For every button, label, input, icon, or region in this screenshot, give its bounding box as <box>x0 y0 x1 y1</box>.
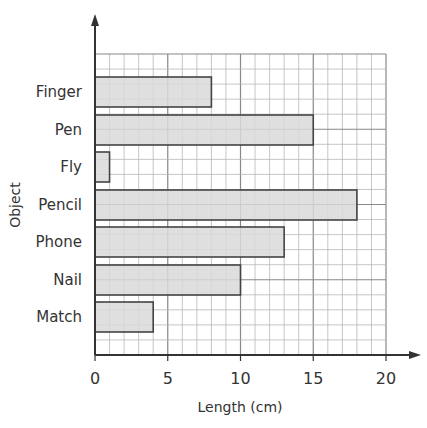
category-label: Pencil <box>38 196 82 214</box>
bar-finger <box>95 77 211 107</box>
bars <box>95 77 357 332</box>
x-tick-label: 20 <box>376 369 396 388</box>
bar-pencil <box>95 190 357 220</box>
x-tick-label: 15 <box>303 369 323 388</box>
x-axis-arrow-icon <box>409 351 421 359</box>
bar-match <box>95 302 153 332</box>
bar-fly <box>95 152 110 182</box>
bar-chart: 05101520 FingerPenFlyPencilPhoneNailMatc… <box>0 0 427 428</box>
category-label: Nail <box>53 271 82 289</box>
x-tick-label: 5 <box>163 369 173 388</box>
x-tick-label: 0 <box>90 369 100 388</box>
y-axis-title: Object <box>7 182 23 228</box>
category-label: Match <box>36 308 82 326</box>
bar-pen <box>95 115 313 145</box>
x-ticks: 05101520 <box>90 355 396 388</box>
category-labels: FingerPenFlyPencilPhoneNailMatch <box>36 83 83 326</box>
x-axis-title: Length (cm) <box>198 399 283 415</box>
category-label: Phone <box>36 233 82 251</box>
bar-nail <box>95 265 241 295</box>
category-label: Fly <box>60 158 82 176</box>
category-label: Pen <box>55 121 82 139</box>
y-axis-arrow-icon <box>91 14 99 26</box>
category-label: Finger <box>36 83 83 101</box>
bar-phone <box>95 227 284 257</box>
x-tick-label: 10 <box>230 369 250 388</box>
